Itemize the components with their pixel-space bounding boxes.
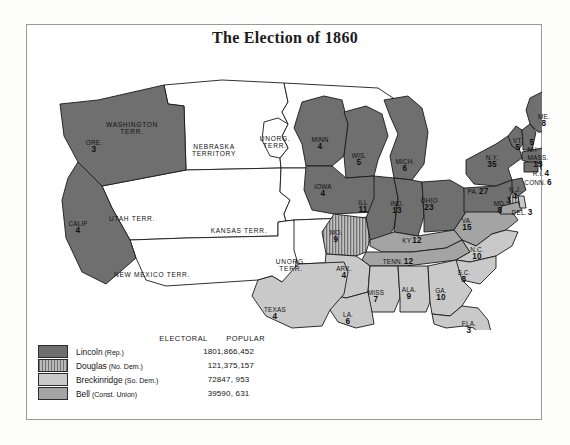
legend-candidate-lincoln: Lincoln (Rep.) <box>76 345 158 359</box>
legend-header-popular: POPULAR <box>217 333 275 345</box>
legend-popular-breckinridge: 847, 953 <box>217 373 275 387</box>
legend-swatch-cell-lincoln <box>38 345 76 359</box>
legend: ELECTORAL POPULAR Lincoln (Rep.)1801,866… <box>38 333 288 401</box>
state-alabama <box>398 266 430 312</box>
candidate-party: (Const. Union) <box>90 391 137 398</box>
legend-swatch-cell-bell <box>38 387 76 401</box>
candidate-party: (Rep.) <box>103 349 124 356</box>
legend-candidate-douglas: Douglas (No. Dem.) <box>76 359 158 373</box>
legend-electoral-breckinridge: 72 <box>158 373 216 387</box>
legend-row: Bell (Const. Union)39590, 631 <box>38 387 275 401</box>
legend-candidate-bell: Bell (Const. Union) <box>76 387 158 401</box>
legend-electoral-lincoln: 180 <box>158 345 216 359</box>
legend-row: Breckinridge (So. Dem.)72847, 953 <box>38 373 275 387</box>
legend-swatch-lincoln <box>38 345 68 358</box>
state-connecticut <box>524 162 538 172</box>
legend-body: Lincoln (Rep.)1801,866,452Douglas (No. D… <box>38 345 275 401</box>
legend-swatch-bell <box>38 387 68 400</box>
legend-table: ELECTORAL POPULAR Lincoln (Rep.)1801,866… <box>38 333 275 401</box>
state-electoral-votes: 6 <box>547 178 552 187</box>
legend-swatch-cell-douglas <box>38 359 76 373</box>
legend-header-electoral: ELECTORAL <box>158 333 216 345</box>
legend-swatch-breckinridge <box>38 373 68 386</box>
candidate-party: (So. Dem.) <box>123 377 159 384</box>
legend-row: Lincoln (Rep.)1801,866,452 <box>38 345 275 359</box>
map-svg <box>26 40 542 330</box>
candidate-name: Lincoln <box>76 347 103 357</box>
legend-popular-lincoln: 1,866,452 <box>217 345 275 359</box>
candidate-party: (No. Dem.) <box>107 363 143 370</box>
legend-swatch-douglas <box>38 359 68 372</box>
legend-electoral-douglas: 12 <box>158 359 216 373</box>
legend-popular-douglas: 1,375,157 <box>217 359 275 373</box>
candidate-name: Breckinridge <box>76 375 123 385</box>
candidate-name: Bell <box>76 389 90 399</box>
us-election-map: WASHINGTONTERR.NEBRASKATERRITORYUTAH TER… <box>26 40 542 330</box>
legend-header-row: ELECTORAL POPULAR <box>38 333 275 345</box>
legend-swatch-cell-breckinridge <box>38 373 76 387</box>
legend-spacer <box>38 333 76 345</box>
legend-spacer-2 <box>76 333 158 345</box>
legend-candidate-breckinridge: Breckinridge (So. Dem.) <box>76 373 158 387</box>
legend-popular-bell: 590, 631 <box>217 387 275 401</box>
state-mississippi <box>368 266 400 312</box>
candidate-name: Douglas <box>76 361 107 371</box>
state-indiana <box>394 178 424 236</box>
legend-electoral-bell: 39 <box>158 387 216 401</box>
legend-row: Douglas (No. Dem.)121,375,157 <box>38 359 275 373</box>
election-map-page: The Election of 1860 <box>0 0 570 445</box>
state-rhode-island <box>540 164 542 170</box>
state-electoral-votes: 4 <box>544 169 549 178</box>
